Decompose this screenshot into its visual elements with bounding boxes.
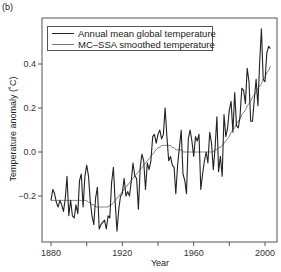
annual-temperature-line bbox=[51, 29, 270, 231]
y-tick-label: 0.2 bbox=[23, 103, 36, 113]
x-tick-label: 1920 bbox=[112, 248, 132, 258]
chart-legend: Annual mean global temperature MC–SSA sm… bbox=[47, 26, 213, 51]
legend-item-smooth: MC–SSA smoothed temperature bbox=[48, 38, 215, 50]
annual-line-swatch-icon bbox=[52, 33, 74, 34]
x-tick-label: 1960 bbox=[184, 248, 204, 258]
y-axis-label: Temperature anomaly (˚C) bbox=[8, 69, 18, 189]
x-tick-label: 2000 bbox=[255, 248, 275, 258]
legend-label-annual: Annual mean global temperature bbox=[78, 28, 216, 39]
y-tick-label: 0.4 bbox=[23, 59, 36, 69]
x-tick-label: 1880 bbox=[41, 248, 61, 258]
x-axis-ticks: 1880192019602000 bbox=[41, 242, 275, 258]
x-axis-label: Year bbox=[140, 258, 180, 268]
panel-label: (b) bbox=[2, 2, 13, 12]
y-tick-label: −0.2 bbox=[18, 191, 36, 201]
legend-label-smooth: MC–SSA smoothed temperature bbox=[78, 39, 215, 50]
smooth-line-swatch-icon bbox=[52, 44, 74, 45]
y-axis-ticks: −0.20.00.20.4 bbox=[18, 59, 42, 201]
y-tick-label: 0.0 bbox=[23, 147, 36, 157]
